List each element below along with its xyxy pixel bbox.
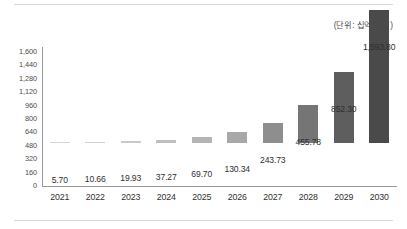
y-axis-tick-label: 160 xyxy=(25,169,37,177)
bar-series: 5.7010.6619.9337.2769.70130.34243.73455.… xyxy=(42,0,397,186)
bar-slot: 37.27 xyxy=(149,0,185,186)
x-axis-tick-label: 2029 xyxy=(326,192,362,202)
x-axis-tick-label: 2023 xyxy=(113,192,149,202)
bar-slot: 19.93 xyxy=(113,0,149,186)
y-axis-tick-label: 1,120 xyxy=(19,88,37,96)
bar[interactable] xyxy=(50,142,70,143)
bar-value-label: 130.34 xyxy=(225,164,250,174)
y-axis-tick-label: 1,440 xyxy=(19,61,37,69)
x-axis-tick-label: 2028 xyxy=(291,192,327,202)
y-axis-tick-label: 640 xyxy=(25,128,37,136)
bar[interactable] xyxy=(192,137,212,143)
bar-slot: 5.70 xyxy=(42,0,78,186)
x-axis-tick-label: 2027 xyxy=(255,192,291,202)
bar[interactable] xyxy=(227,132,247,143)
bar-slot: 10.66 xyxy=(78,0,114,186)
bar[interactable] xyxy=(263,123,283,143)
y-axis-tick-label: 480 xyxy=(25,142,37,150)
bottom-divider-rule xyxy=(14,220,393,221)
bar[interactable] xyxy=(121,141,141,143)
bar-value-label: 455.78 xyxy=(296,137,321,147)
x-axis-tick-label: 2021 xyxy=(42,192,78,202)
x-axis-tick-label: 2022 xyxy=(78,192,114,202)
bar-value-label: 1,593.80 xyxy=(363,42,395,52)
x-axis-tick-label: 2030 xyxy=(362,192,398,202)
bar-slot: 1,593.80 xyxy=(362,0,398,186)
y-axis-tick-label: 960 xyxy=(25,102,37,110)
x-axis-tick-label: 2025 xyxy=(184,192,220,202)
bar-slot: 69.70 xyxy=(184,0,220,186)
bar-value-label: 19.93 xyxy=(120,173,141,183)
bar-value-label: 852.30 xyxy=(331,104,356,114)
bar-value-label: 69.70 xyxy=(191,169,212,179)
x-axis-line xyxy=(42,186,397,187)
y-axis-tick-label: 1,600 xyxy=(19,48,37,56)
x-axis-tick-label: 2026 xyxy=(220,192,256,202)
y-axis-tick-label: 800 xyxy=(25,115,37,123)
x-axis-tick-label: 2024 xyxy=(149,192,185,202)
bar-value-label: 10.66 xyxy=(85,174,106,184)
bar-slot: 455.78 xyxy=(291,0,327,186)
y-axis-tick-label: 1,280 xyxy=(19,75,37,83)
bar[interactable] xyxy=(85,142,105,143)
bar-value-label: 5.70 xyxy=(52,175,68,185)
bar-slot: 852.30 xyxy=(326,0,362,186)
bar-slot: 130.34 xyxy=(220,0,256,186)
x-axis-tick-labels: 2021202220232024202520262027202820292030 xyxy=(42,192,397,206)
y-axis-tick-label: 320 xyxy=(25,155,37,163)
bar[interactable] xyxy=(369,10,389,143)
y-axis-tick-labels: 01603204806408009601,1201,2801,4401,600 xyxy=(0,0,40,229)
chart-figure: (단위: 십억 달러) 01603204806408009601,1201,28… xyxy=(0,0,407,229)
bar-value-label: 243.73 xyxy=(260,155,285,165)
bar[interactable] xyxy=(156,140,176,143)
y-axis-tick-label: 0 xyxy=(33,182,37,190)
bar-value-label: 37.27 xyxy=(156,172,177,182)
bar-slot: 243.73 xyxy=(255,0,291,186)
